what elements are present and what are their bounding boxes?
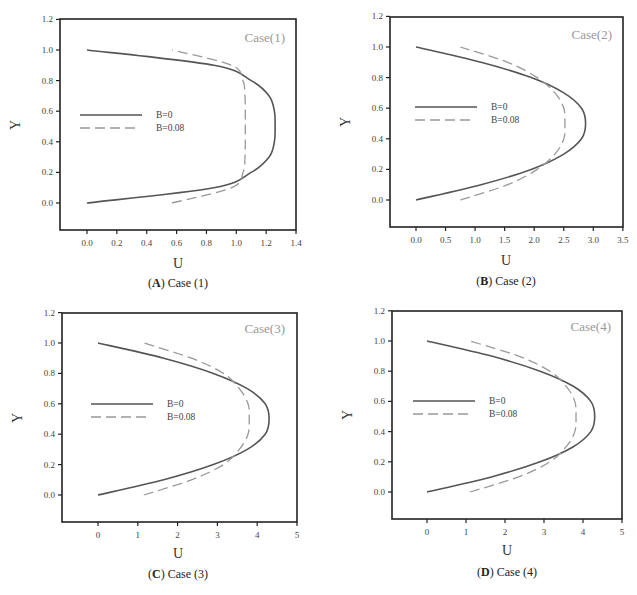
y-axis-label: Y	[10, 413, 25, 423]
y-tick-label: 0.4	[42, 137, 54, 147]
x-tick-label: 2.5	[558, 235, 570, 245]
legend-label: B=0.08	[491, 115, 520, 125]
y-tick-label: 1.2	[44, 308, 55, 318]
y-axis-label: Y	[340, 410, 355, 420]
x-tick-label: 5	[295, 530, 300, 540]
y-tick-label: 1.0	[372, 42, 384, 52]
panel-caption: (C) Case (3)	[148, 567, 208, 581]
x-tick-label: 0.2	[111, 238, 122, 248]
x-axis-label: U	[501, 253, 511, 268]
x-tick-label: 3.5	[617, 235, 629, 245]
y-tick-label: 1.2	[374, 306, 385, 316]
chart-panel-c: 0.00.20.40.60.81.01.2012345B=0B=0.08Case…	[10, 308, 300, 581]
legend-label: B=0	[156, 110, 173, 120]
legend-label: B=0.08	[156, 123, 185, 133]
case-label: Case(3)	[245, 321, 285, 336]
y-tick-label: 1.2	[42, 14, 53, 24]
x-tick-label: 0	[425, 527, 430, 537]
chart-panel-d: 0.00.20.40.60.81.01.2012345B=0B=0.08Case…	[340, 306, 625, 579]
x-tick-label: 3	[215, 530, 220, 540]
x-tick-label: 0.5	[440, 235, 452, 245]
panel-caption: (B) Case (2)	[476, 274, 535, 288]
panel-caption: (D) Case (4)	[477, 565, 537, 579]
y-tick-label: 0.2	[374, 457, 385, 467]
y-tick-label: 0.8	[374, 366, 386, 376]
x-tick-label: 2	[503, 527, 508, 537]
y-tick-label: 0.6	[42, 106, 54, 116]
x-tick-label: 1.5	[499, 235, 511, 245]
series-b-0-08-line	[144, 343, 249, 495]
x-axis-label: U	[173, 546, 183, 561]
y-tick-label: 0.8	[42, 76, 54, 86]
x-tick-label: 3.0	[588, 235, 600, 245]
x-tick-label: 3	[542, 527, 547, 537]
case-label: Case(2)	[572, 27, 612, 42]
case-label: Case(1)	[245, 30, 285, 45]
x-tick-label: 2	[175, 530, 180, 540]
x-tick-label: 5	[620, 527, 625, 537]
x-axis-label: U	[173, 256, 183, 271]
y-tick-label: 1.2	[372, 11, 383, 21]
chart-panel-b: 0.00.20.40.60.81.01.20.00.51.01.52.02.53…	[338, 11, 629, 288]
x-tick-label: 1	[464, 527, 469, 537]
x-tick-label: 1.0	[469, 235, 481, 245]
x-tick-label: 0.0	[410, 235, 422, 245]
x-tick-label: 2.0	[529, 235, 541, 245]
x-tick-label: 1.4	[290, 238, 302, 248]
x-tick-label: 1.2	[261, 238, 272, 248]
legend-label: B=0.08	[167, 412, 196, 422]
panel-caption: (A) Case (1)	[148, 276, 208, 290]
y-tick-label: 0.0	[372, 195, 384, 205]
y-axis-label: Y	[8, 120, 23, 130]
x-axis-label: U	[502, 543, 512, 558]
series-b-0-08-line	[470, 341, 576, 492]
x-tick-label: 1	[136, 530, 141, 540]
legend-label: B=0	[167, 399, 184, 409]
y-tick-label: 0.0	[42, 198, 54, 208]
y-tick-label: 0.4	[372, 134, 384, 144]
x-tick-label: 4	[581, 527, 586, 537]
x-tick-label: 0	[96, 530, 101, 540]
x-tick-label: 4	[255, 530, 260, 540]
y-tick-label: 0.4	[374, 427, 386, 437]
y-tick-label: 0.8	[372, 73, 384, 83]
y-tick-label: 1.0	[44, 338, 56, 348]
x-tick-label: 1.0	[231, 238, 243, 248]
case-label: Case(4)	[571, 319, 611, 334]
y-tick-label: 0.6	[372, 103, 384, 113]
chart-panel-a: 0.00.20.40.60.81.01.20.00.20.40.60.81.01…	[8, 14, 302, 290]
y-tick-label: 0.4	[44, 429, 56, 439]
y-tick-label: 1.0	[374, 336, 386, 346]
x-tick-label: 0.4	[141, 238, 153, 248]
y-axis-label: Y	[338, 117, 353, 127]
y-tick-label: 0.0	[374, 487, 386, 497]
legend-label: B=0.08	[489, 409, 518, 419]
y-tick-label: 0.0	[44, 490, 56, 500]
x-tick-label: 0.0	[81, 238, 93, 248]
x-tick-label: 0.8	[201, 238, 213, 248]
legend-label: B=0	[489, 396, 506, 406]
y-tick-label: 1.0	[42, 45, 54, 55]
y-tick-label: 0.8	[44, 368, 56, 378]
x-tick-label: 0.6	[171, 238, 183, 248]
y-tick-label: 0.2	[44, 460, 55, 470]
y-tick-label: 0.2	[372, 164, 383, 174]
y-tick-label: 0.6	[44, 399, 56, 409]
legend-label: B=0	[491, 102, 508, 112]
y-tick-label: 0.2	[42, 167, 53, 177]
y-tick-label: 0.6	[374, 396, 386, 406]
figure: 0.00.20.40.60.81.01.20.00.20.40.60.81.01…	[0, 0, 637, 595]
